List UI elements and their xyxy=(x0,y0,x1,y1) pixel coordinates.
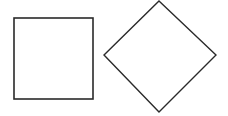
square-shape xyxy=(14,18,93,99)
shapes-diagram xyxy=(0,0,228,116)
diamond-shape xyxy=(104,1,216,112)
